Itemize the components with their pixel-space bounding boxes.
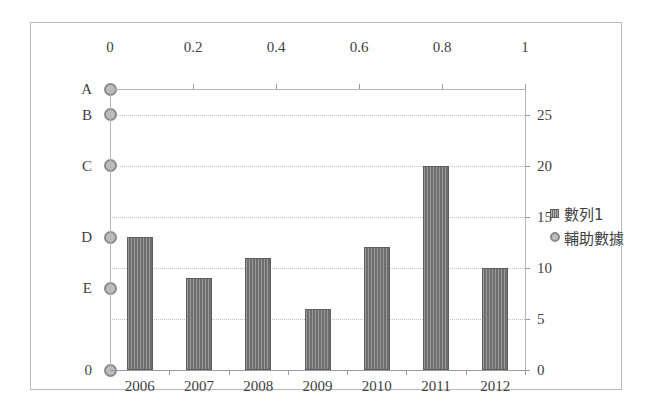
bar-2009[interactable] <box>305 309 331 370</box>
legend-item-label: 輔助數據 <box>564 227 624 248</box>
top-axis-tick-0.4: 0.4 <box>267 39 286 56</box>
left-axis-tick-E: E <box>72 280 92 297</box>
bar-swatch-icon <box>550 209 559 218</box>
bottom-axis-tick-2012: 2012 <box>480 378 510 395</box>
bar-2006[interactable] <box>127 237 153 370</box>
bottom-axis-tick-2011: 2011 <box>421 378 450 395</box>
bar-2008[interactable] <box>245 258 271 370</box>
circle-marker-icon <box>550 232 560 242</box>
gridline-horizontal <box>110 166 525 167</box>
top-axis-tick-0.2: 0.2 <box>184 39 203 56</box>
secondary-x-axis-line <box>110 89 525 90</box>
bar-2007[interactable] <box>186 278 212 370</box>
secondary-y-axis-line <box>110 89 111 370</box>
top-axis-tick-0.6: 0.6 <box>350 39 369 56</box>
left-axis-tick-A: A <box>72 81 92 98</box>
bottom-axis-tick-2008: 2008 <box>243 378 273 395</box>
left-axis-tick-0: 0 <box>72 362 92 379</box>
legend-item-label: 數列1 <box>564 203 604 224</box>
left-axis-tick-B: B <box>72 106 92 123</box>
legend-item-auxdata[interactable]: 輔助數據 <box>550 225 646 249</box>
chart-frame: 00.20.40.60.81 ABCDE0 0510152025 2006200… <box>30 22 622 390</box>
bottom-axis-tickmark <box>525 370 526 375</box>
chart-container: 00.20.40.60.81 ABCDE0 0510152025 2006200… <box>0 0 651 414</box>
bar-2010[interactable] <box>364 247 390 370</box>
bottom-axis-tick-2009: 2009 <box>303 378 333 395</box>
bottom-axis-tick-2007: 2007 <box>184 378 214 395</box>
right-axis-tick-5: 5 <box>537 310 545 327</box>
bottom-axis-tick-2006: 2006 <box>125 378 155 395</box>
right-axis-tick-0: 0 <box>537 362 545 379</box>
top-axis-tick-1: 1 <box>521 39 529 56</box>
top-axis-tick-0.8: 0.8 <box>433 39 452 56</box>
primary-x-axis-line <box>110 370 525 371</box>
gridline-horizontal <box>110 115 525 116</box>
right-axis-tick-25: 25 <box>537 106 552 123</box>
top-axis-tick-0: 0 <box>106 39 114 56</box>
right-axis-tick-20: 20 <box>537 157 552 174</box>
bottom-axis-tick-2010: 2010 <box>362 378 392 395</box>
chart-legend: 數列1 輔助數據 <box>550 201 646 249</box>
right-axis-tick-10: 10 <box>537 259 552 276</box>
primary-y-axis-line <box>525 89 526 370</box>
bar-2011[interactable] <box>423 166 449 370</box>
legend-item-series1[interactable]: 數列1 <box>550 201 646 225</box>
plot-area <box>110 89 525 370</box>
gridline-horizontal <box>110 268 525 269</box>
left-axis-tick-D: D <box>72 229 92 246</box>
gridline-horizontal <box>110 217 525 218</box>
left-axis-tick-C: C <box>72 157 92 174</box>
bar-2012[interactable] <box>482 268 508 370</box>
